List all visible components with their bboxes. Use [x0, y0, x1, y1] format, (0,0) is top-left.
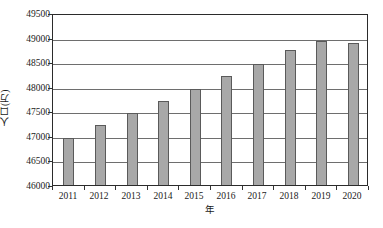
y-axis-tick-mark — [48, 161, 52, 162]
bar — [221, 76, 232, 186]
x-axis-tick-label: 2020 — [332, 191, 372, 202]
x-axis-title: 年 — [52, 205, 368, 216]
y-axis-tick-label: 46500 — [12, 156, 50, 166]
bar — [253, 64, 264, 186]
x-axis-tick-mark — [178, 186, 179, 190]
x-axis-tick-mark — [115, 186, 116, 190]
y-axis-tick-mark — [48, 14, 52, 15]
y-axis-tick-label: 48500 — [12, 58, 50, 68]
y-axis-tick-mark — [48, 63, 52, 64]
x-axis-tick-mark — [368, 186, 369, 190]
bar-chart: 人口(万) 4600046500470004750048000485004900… — [0, 0, 383, 228]
y-axis-tick-mark — [48, 137, 52, 138]
x-axis-tick-mark — [84, 186, 85, 190]
y-axis-tick-mark — [48, 39, 52, 40]
x-axis-tick-mark — [210, 186, 211, 190]
bar — [95, 125, 106, 186]
y-axis-tick-labels: 4600046500470004750048000485004900049500 — [12, 0, 50, 228]
y-axis-tick-label: 46000 — [12, 181, 50, 191]
y-axis-tick-label: 48000 — [12, 83, 50, 93]
y-axis-tick-mark — [48, 112, 52, 113]
x-axis-tick-mark — [273, 186, 274, 190]
bar — [285, 50, 296, 186]
y-axis-tick-label: 49500 — [12, 9, 50, 19]
y-axis-tick-mark — [48, 88, 52, 89]
bar — [190, 89, 201, 186]
bar — [127, 113, 138, 186]
bar — [63, 138, 74, 186]
plot-area — [52, 14, 368, 186]
y-axis-tick-label: 47000 — [12, 132, 50, 142]
x-axis-tick-mark — [242, 186, 243, 190]
bar — [316, 41, 327, 186]
x-axis-tick-mark — [336, 186, 337, 190]
x-axis-tick-mark — [305, 186, 306, 190]
y-axis-tick-label: 47500 — [12, 107, 50, 117]
x-axis-tick-mark — [147, 186, 148, 190]
y-axis-tick-label: 49000 — [12, 34, 50, 44]
bar — [348, 43, 359, 186]
bar — [158, 101, 169, 186]
x-axis-tick-mark — [52, 186, 53, 190]
